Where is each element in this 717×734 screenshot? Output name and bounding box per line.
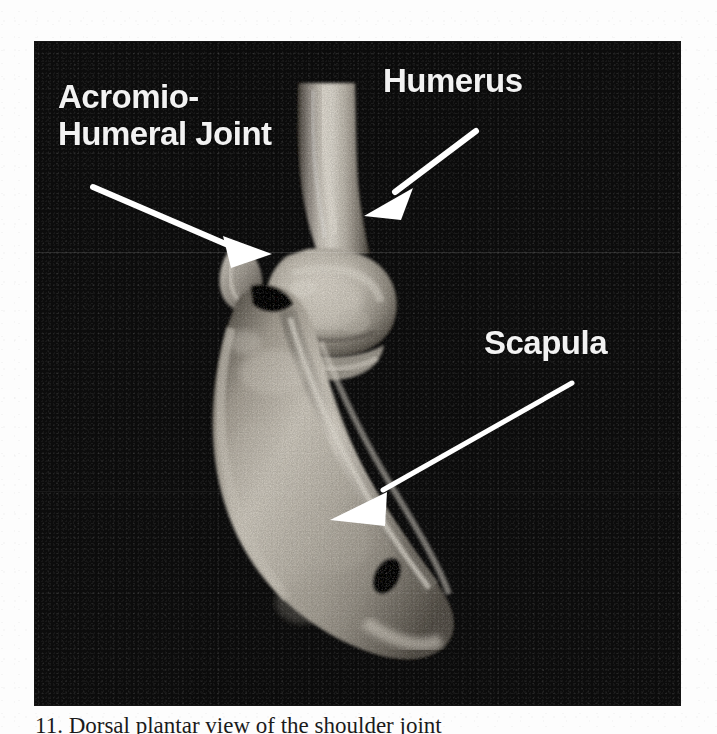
label-humerus: Humerus <box>383 63 523 100</box>
figure-caption: 11. Dorsal plantar view of the shoulder … <box>35 712 695 734</box>
blade-texture-a <box>239 350 307 394</box>
figure-panel: Acromio-Humeral Joint Humerus Scapula <box>35 42 680 705</box>
blade-texture-d <box>275 580 331 624</box>
label-acromio-humeral-joint: Acromio-Humeral Joint <box>58 79 272 153</box>
label-acromio-line2: Humeral Joint <box>58 115 272 152</box>
arrow-scapula <box>330 383 572 526</box>
label-acromio-line1: Acromio- <box>58 78 199 115</box>
blade-texture-b <box>227 422 287 502</box>
arrow-acromio-humeral-joint <box>93 187 272 268</box>
head-texture-b <box>336 309 370 333</box>
head-texture-a <box>290 279 316 297</box>
blade-texture-e <box>229 330 261 354</box>
arrow-humerus <box>364 131 476 220</box>
label-scapula: Scapula <box>484 325 607 362</box>
